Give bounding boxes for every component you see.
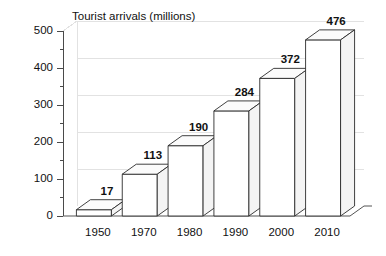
y-axis-ticks-group bbox=[57, 31, 63, 216]
bar-1970 bbox=[122, 164, 171, 216]
bar-front-face-1970 bbox=[122, 174, 157, 216]
y-axis-label-500: 500 bbox=[34, 24, 53, 36]
x-axis-label-1990: 1990 bbox=[223, 226, 249, 238]
value-label-1990: 284 bbox=[235, 86, 255, 98]
chart-canvas: 0100200300400500 19501970198019902000201… bbox=[0, 0, 386, 256]
bar-front-face-1950 bbox=[76, 210, 111, 216]
x-axis-label-2000: 2000 bbox=[268, 226, 294, 238]
bar-2000 bbox=[260, 68, 309, 216]
x-axis-label-2010: 2010 bbox=[314, 226, 340, 238]
y-axis-labels-group: 0100200300400500 bbox=[34, 24, 53, 221]
value-label-1980: 190 bbox=[189, 121, 208, 133]
value-label-2000: 372 bbox=[281, 53, 300, 65]
chart-title: Tourist arrivals (millions) bbox=[72, 10, 195, 22]
bar-2010 bbox=[306, 30, 355, 216]
value-label-1970: 113 bbox=[143, 149, 162, 161]
x-axis-labels-group: 195019701980199020002010 bbox=[85, 226, 340, 238]
bar-front-face-2000 bbox=[260, 78, 295, 216]
tourist-arrivals-bar-chart: 0100200300400500 19501970198019902000201… bbox=[0, 0, 386, 256]
bar-1950 bbox=[76, 200, 125, 216]
bar-front-face-2010 bbox=[306, 40, 341, 216]
y-axis-label-0: 0 bbox=[47, 209, 53, 221]
bar-front-face-1990 bbox=[214, 111, 249, 216]
y-axis-label-400: 400 bbox=[34, 61, 53, 73]
bar-1990 bbox=[214, 101, 263, 216]
bar-front-face-1980 bbox=[168, 146, 203, 216]
bar-1980 bbox=[168, 136, 217, 216]
bar-side-face-2010 bbox=[341, 30, 355, 216]
y-axis-label-200: 200 bbox=[34, 135, 53, 147]
value-label-2010: 476 bbox=[326, 15, 345, 27]
x-axis-label-1950: 1950 bbox=[85, 226, 111, 238]
y-axis-label-300: 300 bbox=[34, 98, 53, 110]
y-axis-label-100: 100 bbox=[34, 172, 53, 184]
y-axis-depth-connector bbox=[63, 21, 77, 31]
x-axis-label-1980: 1980 bbox=[177, 226, 203, 238]
x-axis-label-1970: 1970 bbox=[131, 226, 157, 238]
value-label-1950: 17 bbox=[101, 185, 114, 197]
